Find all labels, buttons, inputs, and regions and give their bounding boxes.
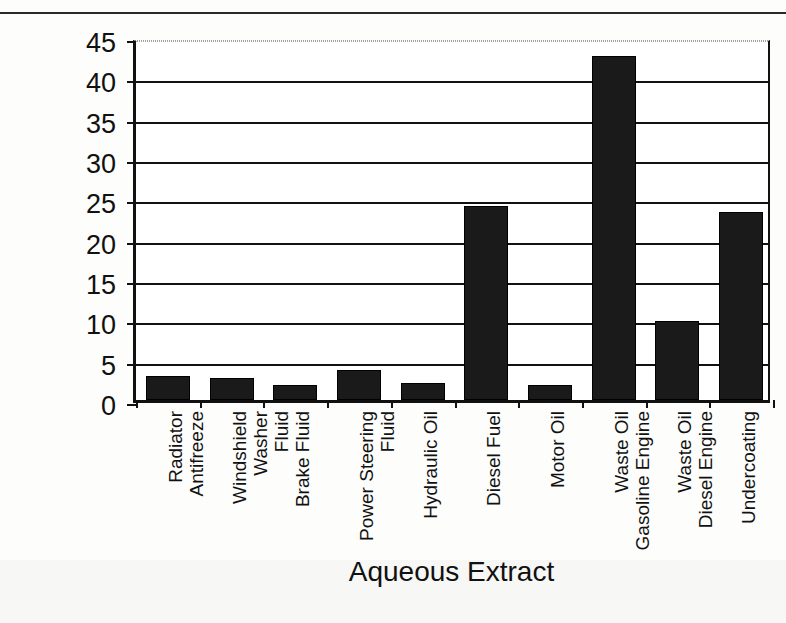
- x-category-label: Hydraulic Oil: [420, 411, 441, 561]
- x-category-label: Windshield Washer Fluid: [229, 411, 292, 561]
- y-tick-10: 10: [127, 323, 136, 325]
- bar: [401, 383, 445, 400]
- x-tick-1: [200, 400, 202, 408]
- y-tick-label-25: 25: [86, 191, 116, 218]
- y-tick-15: 15: [127, 283, 136, 285]
- y-tick-label-40: 40: [86, 70, 116, 97]
- plot-area: 051015202530354045: [133, 40, 770, 403]
- bar: [528, 385, 572, 400]
- x-category-label: Diesel Fuel: [483, 411, 504, 561]
- x-category-label: Waste Oil Diesel Engine: [674, 411, 716, 561]
- bar: [146, 376, 190, 400]
- y-tick-35: 35: [127, 122, 136, 124]
- x-tick-5: [455, 400, 457, 408]
- y-tick-label-35: 35: [86, 110, 116, 137]
- y-tick-40: 40: [127, 81, 136, 83]
- y-tick-label-0: 0: [101, 393, 116, 420]
- y-tick-20: 20: [127, 243, 136, 245]
- figure-page: EROD Induction (fold) 051015202530354045…: [0, 0, 786, 623]
- page-top-rule: [0, 12, 786, 14]
- y-tick-30: 30: [127, 162, 136, 164]
- bar: [719, 212, 763, 400]
- bar: [592, 56, 636, 400]
- bar: [655, 321, 699, 400]
- x-tick-end: [773, 400, 775, 408]
- bar: [273, 385, 317, 400]
- y-tick-5: 5: [127, 364, 136, 366]
- x-category-label: Waste Oil Gasoline Engine: [611, 411, 653, 561]
- x-tick-9: [709, 400, 711, 408]
- bar: [210, 378, 254, 400]
- y-tick-label-20: 20: [86, 231, 116, 258]
- x-category-label: Motor Oil: [547, 411, 568, 561]
- y-tick-0: 0: [127, 404, 136, 406]
- y-tick-25: 25: [127, 202, 136, 204]
- bar: [464, 206, 508, 400]
- x-tick-3: [327, 400, 329, 408]
- x-axis-title: Aqueous Extract: [133, 556, 770, 588]
- bar-series: [136, 41, 768, 400]
- x-tick-4: [391, 400, 393, 408]
- x-tick-8: [646, 400, 648, 408]
- y-tick-label-5: 5: [101, 352, 116, 379]
- x-tick-7: [582, 400, 584, 408]
- y-tick-45: 45: [127, 41, 136, 43]
- x-category-label: Radiator Antifreeze: [165, 411, 207, 561]
- bar: [337, 370, 381, 400]
- x-category-label: Power Steering Fluid: [356, 411, 398, 561]
- x-tick-6: [518, 400, 520, 408]
- x-tick-2: [263, 400, 265, 408]
- x-category-label: Brake Fluid: [292, 411, 313, 561]
- x-category-label: Undercoating: [738, 411, 759, 561]
- y-tick-label-30: 30: [86, 151, 116, 178]
- y-tick-label-15: 15: [86, 272, 116, 299]
- x-axis-category-labels: Radiator AntifreezeWindshield Washer Flu…: [133, 411, 770, 551]
- y-tick-label-45: 45: [86, 30, 116, 57]
- y-tick-label-10: 10: [86, 312, 116, 339]
- x-tick-0: [136, 400, 138, 408]
